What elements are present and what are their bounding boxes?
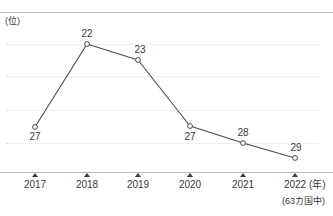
data-point-marker	[293, 156, 298, 161]
data-point-marker	[188, 124, 193, 129]
data-point-label: 23	[125, 44, 155, 55]
series-markers	[33, 42, 298, 161]
rank-line-chart: (位) 272223272829 20172018201920202021202…	[0, 0, 333, 216]
x-axis-label: 2017	[15, 179, 55, 191]
x-tick-triangle-icon	[135, 173, 141, 177]
x-axis-label: 2018	[67, 179, 107, 191]
x-tick-triangle-icon	[84, 173, 90, 177]
data-point-label: 27	[175, 131, 205, 142]
data-point-marker	[136, 58, 141, 63]
series-polyline	[35, 44, 295, 158]
data-point-label: 27	[20, 131, 50, 142]
data-point-label: 29	[281, 142, 311, 153]
data-point-marker	[241, 141, 246, 146]
data-point-marker	[33, 125, 38, 130]
x-axis-unit-label: (年)	[309, 179, 326, 191]
x-axis-line	[0, 172, 333, 173]
x-axis-label: 2021	[223, 179, 263, 191]
x-tick-triangle-icon	[32, 173, 38, 177]
x-tick-triangle-icon	[187, 173, 193, 177]
x-tick-triangle-icon	[292, 173, 298, 177]
x-axis-label: 2019	[118, 179, 158, 191]
x-tick-triangle-icon	[240, 173, 246, 177]
chart-footnote: (63カ国中)	[282, 196, 325, 207]
x-axis-label: 2020	[170, 179, 210, 191]
data-point-label: 22	[72, 28, 102, 39]
data-point-label: 28	[228, 127, 258, 138]
data-point-marker	[85, 42, 90, 47]
